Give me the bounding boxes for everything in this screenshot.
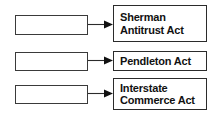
- act-label: Interstate Commerce Act: [114, 82, 198, 107]
- arrow-right-icon: [88, 20, 113, 29]
- blank-answer-box-3[interactable]: [15, 85, 88, 104]
- act-box-sherman-antitrust-act[interactable]: Sherman Antitrust Act: [113, 5, 207, 42]
- matching-diagram: Sherman Antitrust Act Pendleton Act Inte…: [0, 0, 217, 115]
- arrow-right-icon: [88, 89, 113, 98]
- act-box-pendleton-act[interactable]: Pendleton Act: [113, 51, 207, 71]
- blank-answer-box-1[interactable]: [15, 15, 88, 35]
- blank-answer-box-2[interactable]: [15, 52, 88, 71]
- arrow-right-icon: [88, 56, 113, 65]
- act-label: Sherman Antitrust Act: [114, 11, 187, 36]
- act-box-interstate-commerce-act[interactable]: Interstate Commerce Act: [113, 78, 207, 110]
- act-label: Pendleton Act: [114, 55, 194, 68]
